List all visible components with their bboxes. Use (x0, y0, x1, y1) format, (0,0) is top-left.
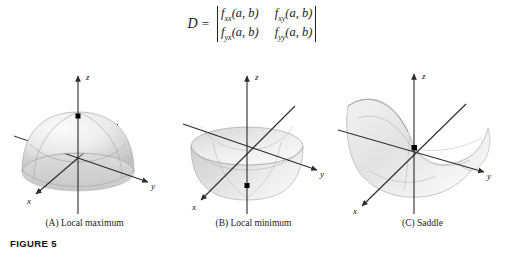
saddle-gridline-5 (422, 138, 482, 151)
z-axis-label: z (421, 71, 426, 81)
matrix-cell-fyy: fyy(a, b) (275, 25, 313, 43)
matrix-cell-fxx: fxx(a, b) (221, 6, 259, 24)
formula-row: D = fxx(a, b) fxy(a, b) fyx(a, b) fyy(a,… (188, 6, 320, 42)
panel-local-minimum: z y x (169, 66, 338, 216)
matrix-cell-fyx: fyx(a, b) (221, 25, 259, 43)
z-axis-label: z (85, 72, 90, 82)
critical-point-marker (76, 114, 81, 119)
determinant-formula: D = fxx(a, b) fxy(a, b) fyx(a, b) fyy(a,… (0, 6, 507, 42)
figure-label: FIGURE 5 (10, 238, 57, 249)
matrix-cell-fxy: fxy(a, b) (275, 6, 313, 24)
critical-point-marker (412, 145, 418, 151)
caption-saddle: (C) Saddle (338, 218, 507, 228)
x-axis-label: x (191, 202, 196, 212)
saddle-lobe-right (458, 128, 490, 170)
z-axis-label: z (254, 72, 259, 82)
critical-point-marker (245, 183, 250, 188)
determinant-bar-right (315, 6, 316, 42)
x-axis-label: x (26, 196, 31, 206)
determinant-bar-left (217, 6, 218, 42)
y-axis-label: y (150, 181, 155, 191)
surface-plot-saddle: z y x (338, 66, 507, 216)
determinant-matrix: fxx(a, b) fxy(a, b) fyx(a, b) fyy(a, b) (214, 6, 319, 42)
y-axis-label: y (319, 169, 324, 179)
y-axis-label: y (486, 171, 491, 181)
x-axis-label: x (352, 206, 357, 216)
panel-saddle: z y x (338, 66, 507, 216)
caption-local-minimum: (B) Local minimum (169, 218, 338, 228)
formula-equals: = (202, 16, 209, 32)
panel-local-maximum: z y x (0, 66, 169, 216)
formula-lhs: D (188, 16, 198, 32)
saddle-surface (347, 99, 488, 197)
surface-plot-local-maximum: z y x (0, 66, 169, 216)
caption-local-maximum: (A) Local maximum (0, 218, 169, 228)
determinant-grid: fxx(a, b) fxy(a, b) fyx(a, b) fyy(a, b) (221, 6, 312, 42)
surface-plot-local-minimum: z y x (169, 66, 338, 216)
